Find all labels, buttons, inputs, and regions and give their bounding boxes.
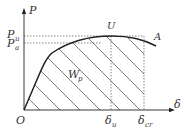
- pa-label: P: [6, 37, 15, 50]
- du-label: δ: [105, 114, 112, 127]
- axes: [22, 8, 175, 112]
- guide-lines: [24, 36, 144, 110]
- dcr-label: δ: [138, 114, 145, 127]
- y-arrow-icon: [22, 8, 26, 14]
- pu-sub: u: [15, 35, 20, 43]
- dcr-sub: cr: [145, 121, 153, 129]
- x-axis-label: δ: [174, 98, 181, 111]
- pa-sub: a: [15, 44, 19, 52]
- peak-label: U: [107, 20, 116, 31]
- du-sub: u: [112, 121, 117, 129]
- area-sub: p: [78, 75, 83, 83]
- hatched-area: [0, 30, 185, 110]
- origin-label: O: [16, 114, 25, 127]
- end-label: A: [153, 31, 161, 42]
- load-curve: [24, 36, 156, 110]
- y-axis-label: P: [28, 4, 37, 17]
- load-displacement-diagram: P δ O P u P a U A W p δ u δ cr: [0, 0, 185, 135]
